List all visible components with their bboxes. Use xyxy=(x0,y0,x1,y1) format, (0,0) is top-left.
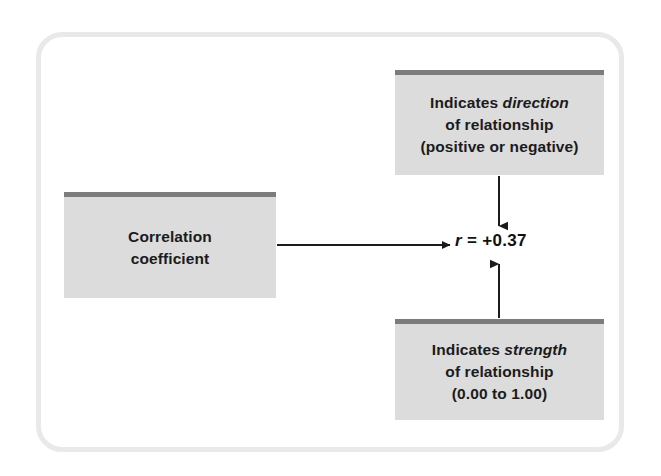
figure-canvas: Indicates direction of relationship (pos… xyxy=(0,0,661,476)
box-direction-line1-prefix: Indicates xyxy=(430,94,503,111)
box-correlation-coefficient: Correlation coefficient xyxy=(64,192,276,298)
r-numeric-value: +0.37 xyxy=(482,231,527,250)
box-strength-line1-prefix: Indicates xyxy=(432,341,505,358)
box-correlation-line2: coefficient xyxy=(131,250,210,267)
box-direction-line3: (positive or negative) xyxy=(420,138,578,155)
box-direction-line1-emphasis: direction xyxy=(503,94,569,111)
box-direction-line2: of relationship xyxy=(445,116,553,133)
box-strength-line2: of relationship xyxy=(445,363,553,380)
r-symbol: r xyxy=(455,231,462,250)
box-strength-line1-emphasis: strength xyxy=(504,341,567,358)
box-strength-line3: (0.00 to 1.00) xyxy=(452,385,547,402)
box-strength: Indicates strength of relationship (0.00… xyxy=(395,319,604,420)
equals-operator: = xyxy=(462,231,482,250)
box-direction: Indicates direction of relationship (pos… xyxy=(395,70,604,175)
correlation-value: r = +0.37 xyxy=(455,231,565,257)
box-correlation-text: Correlation coefficient xyxy=(122,226,218,270)
box-correlation-line1: Correlation xyxy=(128,228,212,245)
box-strength-text: Indicates strength of relationship (0.00… xyxy=(426,339,573,405)
box-direction-text: Indicates direction of relationship (pos… xyxy=(414,92,584,158)
